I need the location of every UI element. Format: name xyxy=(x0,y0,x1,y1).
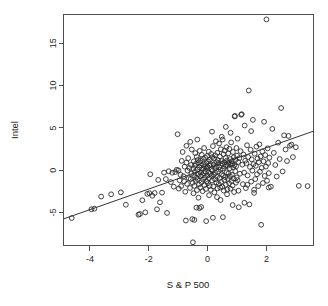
x-tick-label: -4 xyxy=(86,254,94,264)
x-tick-label: 0 xyxy=(205,254,210,264)
x-axis-title: S & P 500 xyxy=(167,279,210,290)
y-tick-label: 0 xyxy=(48,168,58,173)
y-tick-label: 10 xyxy=(48,81,58,91)
y-tick-label: -5 xyxy=(48,208,58,216)
y-tick-label: 5 xyxy=(48,125,58,130)
scatter-plot-figure: -4-202 -5051015 S & P 500 Intel xyxy=(0,0,328,306)
plot-canvas: -4-202 -5051015 S & P 500 Intel xyxy=(0,0,328,306)
x-tick-label: -2 xyxy=(145,254,153,264)
y-axis-title: Intel xyxy=(9,121,20,139)
x-tick-label: 2 xyxy=(264,254,269,264)
y-tick-label: 15 xyxy=(48,38,58,48)
